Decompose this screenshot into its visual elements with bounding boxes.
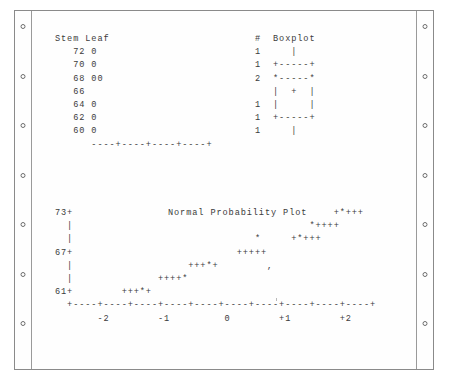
tractor-feed-hole-left-6 [21, 272, 26, 277]
normal-probability-plot: 73+ +*+++ | *++++ | * +*+++ 67+ +++++ | [55, 207, 376, 326]
tractor-feed-hole-right-3 [423, 123, 428, 128]
printout-paper: Stem Leaf # Boxplot 72 0 1 | 70 0 1 +---… [14, 10, 434, 370]
tractor-feed-hole-right-7 [423, 321, 428, 326]
tractor-feed-hole-left-5 [21, 222, 26, 227]
print-speck [276, 298, 277, 301]
tractor-feed-hole-left-2 [21, 74, 26, 79]
tractor-feed-hole-right-5 [423, 222, 428, 227]
tractor-feed-hole-right-6 [423, 272, 428, 277]
stem-and-leaf-plot: Stem Leaf # Boxplot 72 0 1 | 70 0 1 +---… [55, 33, 315, 152]
printout-content: Stem Leaf # Boxplot 72 0 1 | 70 0 1 +---… [33, 11, 415, 369]
tractor-feed-strip-right [416, 11, 433, 369]
tractor-feed-hole-left-3 [21, 123, 26, 128]
tractor-feed-hole-right-2 [423, 74, 428, 79]
tractor-feed-strip-left [15, 11, 32, 369]
tractor-feed-hole-right-4 [423, 173, 428, 178]
tractor-feed-hole-left-4 [21, 173, 26, 178]
tractor-feed-hole-left-1 [21, 24, 26, 29]
tractor-feed-hole-left-7 [21, 321, 26, 326]
tractor-feed-hole-right-1 [423, 24, 428, 29]
